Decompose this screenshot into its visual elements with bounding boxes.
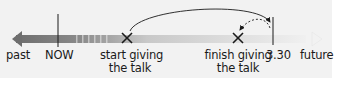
dashed-arc-arrow [240, 19, 270, 30]
past-arrowhead-icon [12, 31, 22, 47]
label-future: future [300, 49, 334, 62]
label-past: past [6, 49, 30, 62]
future-arrowhead-icon [312, 32, 322, 46]
solid-arc-arrow [130, 9, 270, 31]
label-start: start giving the talk [100, 49, 160, 75]
label-now: NOW [45, 49, 73, 62]
timeline-graphic [0, 0, 340, 87]
label-finish: finish giving the talk [202, 49, 274, 75]
label-time: 3.30 [266, 49, 291, 62]
